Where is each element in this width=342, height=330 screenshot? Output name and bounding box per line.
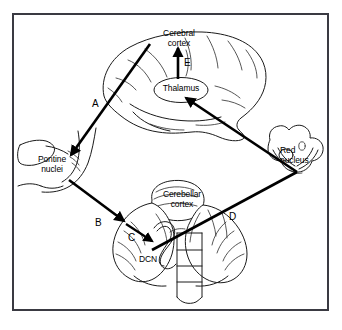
- pathway-label-b: B: [95, 217, 102, 228]
- pathway-label-e: E: [184, 57, 191, 68]
- pathway-label-a: A: [92, 98, 99, 109]
- label-thalamus: Thalamus: [152, 84, 210, 94]
- label-red-nucleus: Red nucleus: [280, 146, 334, 165]
- label-cerebral-cortex: Cerebral cortex: [142, 29, 216, 48]
- label-pontine-nuclei: Pontine nuclei: [24, 155, 80, 174]
- pathway-arrow-b: [69, 180, 124, 221]
- pathway-label-c: C: [128, 232, 135, 243]
- label-dcn: DCN: [139, 255, 169, 265]
- figure-root: Cerebral cortex Thalamus Pontine nuclei …: [0, 0, 342, 330]
- pathway-label-d: D: [229, 211, 236, 222]
- label-cerebellar-cortex: Cerebellar cortex: [145, 190, 219, 209]
